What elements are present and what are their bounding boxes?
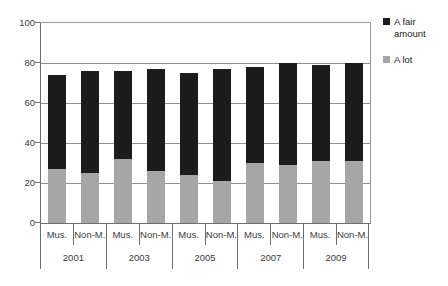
bar-segment-a-fair-amount: [48, 75, 66, 169]
bar-segment-a-fair-amount: [345, 63, 363, 161]
legend-swatch-icon: [383, 56, 390, 63]
bar-segment-a-lot: [312, 161, 330, 223]
bar-segment-a-lot: [147, 171, 165, 223]
x-year-label: 2003: [106, 245, 172, 269]
x-category-label: Non-M.: [336, 223, 369, 245]
x-category-label: Mus.: [40, 223, 73, 245]
plot-area: [40, 22, 371, 224]
bar-segment-a-lot: [279, 165, 297, 223]
stacked-bar-chart: 020406080100 Mus.Non-M.Mus.Non-M.Mus.Non…: [0, 0, 448, 286]
bar-segment-a-fair-amount: [246, 67, 264, 163]
bar-segment-a-fair-amount: [180, 73, 198, 175]
bar-stack: [81, 23, 99, 223]
bar-stack: [345, 23, 363, 223]
legend-entry: A fair amount: [383, 16, 447, 40]
y-tick-label: 100: [5, 18, 35, 28]
y-tick-label: 60: [5, 98, 35, 108]
bar-stack: [48, 23, 66, 223]
bar-segment-a-fair-amount: [312, 65, 330, 161]
bar-segment-a-fair-amount: [81, 71, 99, 173]
bar-stack: [114, 23, 132, 223]
x-category-label: Mus.: [237, 223, 270, 245]
x-category-label: Mus.: [106, 223, 139, 245]
legend-label: A lot: [394, 54, 413, 66]
legend-label: A fair amount: [394, 16, 447, 40]
bar-segment-a-lot: [180, 175, 198, 223]
x-category-label: Non-M.: [139, 223, 172, 245]
y-tick-label: 40: [5, 138, 35, 148]
bar-segment-a-fair-amount: [114, 71, 132, 159]
y-tick-label: 20: [5, 178, 35, 188]
bar-segment-a-fair-amount: [147, 69, 165, 171]
bar-segment-a-lot: [246, 163, 264, 223]
legend-swatch-icon: [383, 18, 390, 25]
bar-stack: [246, 23, 264, 223]
bar-stack: [213, 23, 231, 223]
chart-legend: A fair amountA lot: [383, 16, 447, 80]
bar-stack: [279, 23, 297, 223]
bar-segment-a-fair-amount: [279, 63, 297, 165]
bar-segment-a-lot: [213, 181, 231, 223]
y-tick-label: 80: [5, 58, 35, 68]
bar-segment-a-lot: [81, 173, 99, 223]
x-category-label: Non-M.: [73, 223, 106, 245]
bar-segment-a-lot: [48, 169, 66, 223]
x-year-label: 2005: [172, 245, 238, 269]
x-axis-year-labels: 20012003200520072009: [40, 245, 371, 269]
x-category-label: Mus.: [303, 223, 336, 245]
bar-segment-a-lot: [345, 161, 363, 223]
x-category-label: Non-M.: [205, 223, 238, 245]
bar-segment-a-fair-amount: [213, 69, 231, 181]
x-year-label: 2009: [303, 245, 369, 269]
y-tick-label: 0: [5, 218, 35, 228]
x-year-label: 2007: [237, 245, 303, 269]
x-year-label: 2001: [40, 245, 106, 269]
x-category-label: Mus.: [172, 223, 205, 245]
bar-stack: [312, 23, 330, 223]
bar-stack: [147, 23, 165, 223]
bar-segment-a-lot: [114, 159, 132, 223]
x-category-label: Non-M.: [270, 223, 303, 245]
bar-stack: [180, 23, 198, 223]
legend-entry: A lot: [383, 54, 447, 66]
x-axis-category-labels: Mus.Non-M.Mus.Non-M.Mus.Non-M.Mus.Non-M.…: [40, 223, 371, 245]
